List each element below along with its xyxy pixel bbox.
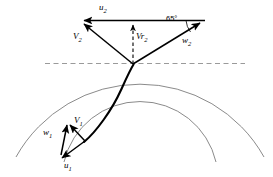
v2-label: V2	[73, 32, 82, 43]
v2-vector	[84, 24, 133, 64]
outer-shroud-arc	[16, 84, 264, 157]
u1-vector	[62, 141, 85, 158]
v1-label: V1	[74, 116, 83, 127]
diagram-canvas	[0, 0, 273, 177]
inner-hub-arc	[64, 102, 216, 162]
u2-label: u2	[99, 3, 107, 14]
w1-label: w1	[43, 128, 52, 139]
u1-label: u1	[64, 161, 72, 172]
velocity-triangle-diagram: u2 V2 Vr2 w2 65° V1 w1 u1	[0, 0, 273, 177]
w1-vector	[61, 125, 67, 155]
angle-65-label: 65°	[166, 15, 177, 23]
vr2-label: Vr2	[136, 32, 148, 43]
blade-curve	[84, 65, 134, 143]
v1-vector	[70, 125, 85, 141]
w2-label: w2	[182, 36, 191, 47]
